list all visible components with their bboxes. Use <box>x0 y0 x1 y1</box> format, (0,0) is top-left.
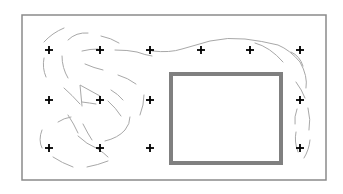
trajectory-segment <box>118 75 136 84</box>
trajectory-segment <box>62 56 68 78</box>
node-cross-icon <box>45 96 53 104</box>
trajectory-segment <box>105 117 130 141</box>
node-cross-icon <box>146 96 154 104</box>
node-cross-icon <box>146 46 154 54</box>
node-cross-icon <box>296 96 304 104</box>
node-cross-icon <box>96 96 104 104</box>
trajectory-segment <box>87 161 108 167</box>
trajectory-segment <box>295 132 298 152</box>
node-cross-icon <box>96 144 104 152</box>
obstacle-rectangle <box>171 74 281 163</box>
trajectory-segment <box>140 95 144 115</box>
trajectory-segment <box>83 124 92 140</box>
trajectory-segment <box>78 136 108 157</box>
trajectory-segment <box>68 33 88 40</box>
trajectory-segment <box>108 101 121 116</box>
trajectory-segment <box>40 130 42 148</box>
node-cross-icon <box>146 144 154 152</box>
trajectory-segment <box>115 50 152 56</box>
node-cross-icon <box>197 46 205 54</box>
trajectory-segment <box>111 90 123 100</box>
node-cross-icon <box>96 46 104 54</box>
trajectory-segment <box>82 102 96 104</box>
trajectory-segment <box>296 82 305 98</box>
node-cross-icon <box>246 46 254 54</box>
trajectory-segment <box>101 36 119 43</box>
node-cross-icon <box>296 46 304 54</box>
trajectory-segment <box>64 88 80 104</box>
trajectory-segment <box>308 108 310 130</box>
node-cross-icon <box>45 144 53 152</box>
trajectory-segment <box>82 49 98 51</box>
trajectory-segment <box>44 28 64 42</box>
trajectory-segment <box>85 64 103 70</box>
trajectory-segment <box>295 109 297 124</box>
trajectory-segment <box>304 140 310 158</box>
network-diagram <box>0 0 343 194</box>
node-cross-icon <box>45 46 53 54</box>
trajectory-segment <box>58 117 71 122</box>
trajectory-segment <box>43 58 46 77</box>
trajectory-segment <box>68 115 78 133</box>
trajectory-segment <box>53 157 73 167</box>
